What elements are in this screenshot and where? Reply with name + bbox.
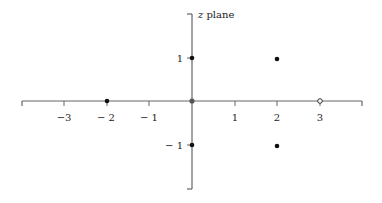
point-2-1 [275,57,280,62]
x-tick-label: −3 [57,112,72,123]
x-tick-label: − 2 [97,112,115,123]
x-tick-label: − 1 [140,112,158,123]
point-2-neg1 [275,144,280,149]
point-0-1 [190,56,195,61]
x-tick-label: 3 [317,112,323,123]
y-tick-label: − 1 [165,140,183,151]
plane-title: z plane [197,9,234,20]
x-tick-labels: −3 − 2 − 1 1 2 3 [57,112,324,123]
x-tick-label: 1 [232,112,238,123]
y-tick-labels: 1 − 1 [165,53,183,151]
points [105,56,323,149]
y-tick-label: 1 [177,53,183,64]
point-0-neg1 [190,143,195,148]
x-tick-label: 2 [274,112,280,123]
point-3-0-open [318,99,323,104]
point-neg2-0 [105,99,110,104]
point-origin [189,98,194,103]
z-plane-diagram: −3 − 2 − 1 1 2 3 1 − 1 z plane [0,0,382,203]
plane-title-rest: plane [203,9,234,20]
